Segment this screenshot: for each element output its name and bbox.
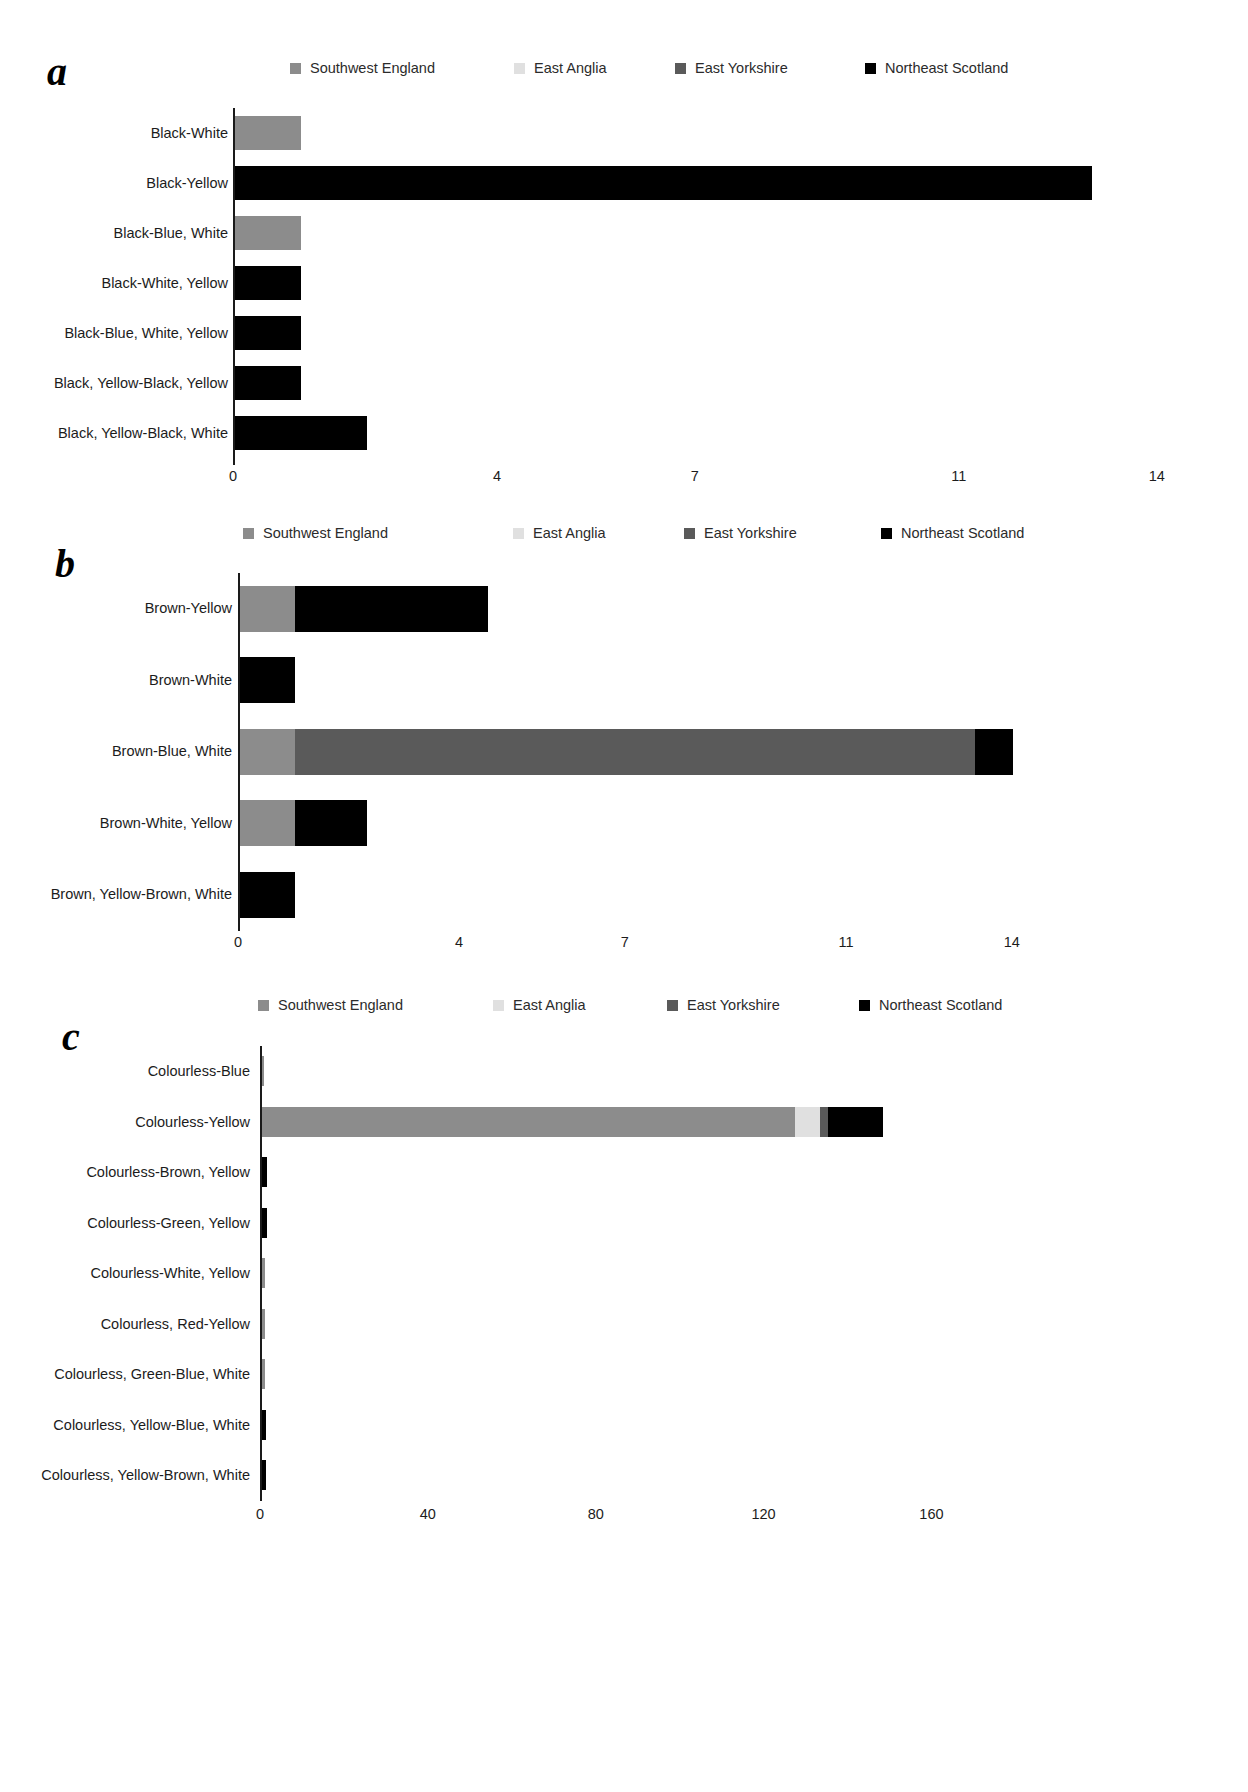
bar-segment[interactable] [975, 729, 1014, 775]
bar-segment[interactable] [262, 1208, 267, 1238]
bar-segment[interactable] [262, 1157, 267, 1187]
bar-segment[interactable] [240, 800, 295, 846]
bar-segment[interactable] [262, 1309, 265, 1339]
bar-stack[interactable] [240, 872, 295, 918]
bar-stack[interactable] [235, 416, 367, 450]
legend-label: Northeast Scotland [879, 998, 1002, 1013]
panel-letter-b: b [55, 540, 75, 587]
bar-stack[interactable] [240, 657, 295, 703]
bar-stack[interactable] [235, 266, 301, 300]
bar-stack[interactable] [235, 166, 1093, 200]
bar-segment[interactable] [795, 1107, 820, 1137]
bar-stack[interactable] [235, 366, 301, 400]
bar-segment[interactable] [235, 266, 301, 300]
legend-item-east_yorkshire[interactable]: East Yorkshire [684, 526, 797, 541]
legend-label: Northeast Scotland [901, 526, 1024, 541]
bar-stack[interactable] [262, 1309, 265, 1339]
x-axis-tick-label: 40 [420, 1506, 436, 1522]
bar-stack[interactable] [240, 800, 367, 846]
bar-segment[interactable] [235, 216, 301, 250]
legend-swatch-icon [667, 1000, 678, 1011]
bar-segment[interactable] [820, 1107, 828, 1137]
category-label: Colourless-Yellow [26, 1097, 261, 1148]
category-label: Brown-Blue, White [32, 716, 243, 788]
bar-row: Black-Yellow [0, 158, 1248, 208]
bar-stack[interactable] [262, 1056, 265, 1086]
legend-label: East Anglia [513, 998, 586, 1013]
bar-segment[interactable] [235, 416, 367, 450]
category-label: Black-White [32, 108, 239, 158]
bar-stack[interactable] [240, 586, 489, 632]
legend-label: East Yorkshire [704, 526, 797, 541]
bar-segment[interactable] [235, 366, 301, 400]
bar-stack[interactable] [262, 1107, 883, 1137]
bar-segment[interactable] [235, 116, 301, 150]
bar-stack[interactable] [235, 116, 301, 150]
panel-b: Southwest EnglandEast AngliaEast Yorkshi… [0, 0, 1248, 1792]
x-axis-tick-label: 11 [951, 468, 966, 484]
bar-row: Brown-White [0, 645, 1248, 717]
category-label: Black-Blue, White [32, 208, 239, 258]
bar-stack[interactable] [262, 1460, 267, 1490]
bar-segment[interactable] [295, 729, 975, 775]
category-label: Black-White, Yellow [32, 258, 239, 308]
bar-row: Brown, Yellow-Brown, White [0, 859, 1248, 931]
category-label: Colourless-Blue [26, 1046, 261, 1097]
bar-row: Colourless-White, Yellow [0, 1248, 1248, 1299]
legend-item-northeast_scotland[interactable]: Northeast Scotland [859, 998, 1002, 1013]
legend-item-northeast_scotland[interactable]: Northeast Scotland [865, 61, 1008, 76]
bar-segment[interactable] [262, 1359, 265, 1389]
legend-item-southwest_england[interactable]: Southwest England [243, 526, 388, 541]
panel-letter-c: c [62, 1013, 80, 1060]
legend-swatch-icon [258, 1000, 269, 1011]
legend-item-southwest_england[interactable]: Southwest England [258, 998, 403, 1013]
bar-segment[interactable] [240, 586, 295, 632]
bar-stack[interactable] [262, 1157, 267, 1187]
category-label: Brown-White [32, 645, 243, 717]
bar-row: Brown-Blue, White [0, 716, 1248, 788]
bar-stack[interactable] [235, 216, 301, 250]
bar-segment[interactable] [295, 586, 488, 632]
bar-stack[interactable] [240, 729, 1014, 775]
bar-stack[interactable] [262, 1208, 267, 1238]
legend-label: East Anglia [534, 61, 607, 76]
bar-segment[interactable] [262, 1107, 795, 1137]
x-axis-tick-label: 80 [588, 1506, 604, 1522]
bar-row: Black-Blue, White, Yellow [0, 308, 1248, 358]
bar-segment[interactable] [262, 1410, 267, 1440]
legend-swatch-icon [684, 528, 695, 539]
legend-swatch-icon [514, 63, 525, 74]
legend-swatch-icon [859, 1000, 870, 1011]
bar-segment[interactable] [240, 657, 295, 703]
legend-item-northeast_scotland[interactable]: Northeast Scotland [881, 526, 1024, 541]
bar-segment[interactable] [235, 316, 301, 350]
legend-item-east_yorkshire[interactable]: East Yorkshire [667, 998, 780, 1013]
legend-item-southwest_england[interactable]: Southwest England [290, 61, 435, 76]
x-axis-tick-label: 4 [493, 468, 501, 484]
legend-item-east_yorkshire[interactable]: East Yorkshire [675, 61, 788, 76]
bar-segment[interactable] [262, 1460, 267, 1490]
bar-row: Colourless, Red-Yellow [0, 1299, 1248, 1350]
bar-segment[interactable] [240, 729, 295, 775]
bar-stack[interactable] [262, 1258, 265, 1288]
category-label: Colourless-Green, Yellow [26, 1198, 261, 1249]
legend-item-east_anglia[interactable]: East Anglia [513, 526, 606, 541]
bar-segment[interactable] [262, 1056, 265, 1086]
bar-stack[interactable] [262, 1410, 267, 1440]
bar-segment[interactable] [235, 166, 1093, 200]
bar-row: Colourless-Brown, Yellow [0, 1147, 1248, 1198]
bar-segment[interactable] [240, 872, 295, 918]
category-label: Colourless, Red-Yellow [26, 1299, 261, 1350]
bar-segment[interactable] [262, 1258, 265, 1288]
bar-stack[interactable] [235, 316, 301, 350]
legend: Southwest EnglandEast AngliaEast Yorkshi… [0, 992, 1248, 1018]
legend-swatch-icon [290, 63, 301, 74]
category-label: Brown-White, Yellow [32, 788, 243, 860]
bar-segment[interactable] [828, 1107, 883, 1137]
bar-row: Colourless, Yellow-Brown, White [0, 1450, 1248, 1501]
legend-label: Northeast Scotland [885, 61, 1008, 76]
legend-item-east_anglia[interactable]: East Anglia [514, 61, 607, 76]
bar-stack[interactable] [262, 1359, 265, 1389]
bar-segment[interactable] [295, 800, 367, 846]
legend-item-east_anglia[interactable]: East Anglia [493, 998, 586, 1013]
